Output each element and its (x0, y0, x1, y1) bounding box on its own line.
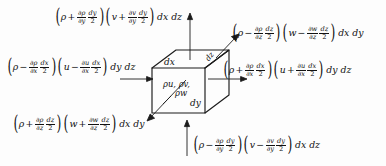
flux-expression-top-right: (ρ−∂ρ∂zdz2)(w−∂w∂zdz2)dx dy (231, 26, 364, 41)
partial-derivative-2: ∂w∂z (88, 117, 99, 132)
operator-2: − (70, 61, 80, 72)
operator-2: − (255, 139, 265, 150)
flux-expression-right: (ρ+∂ρ∂xdx2)(u+∂u∂xdx2)dy dz (222, 63, 351, 78)
flux-arrow-left (120, 77, 153, 82)
half-differential-1: dy2 (226, 138, 236, 153)
cube-label-mass-flux-line2: ρw (175, 89, 187, 99)
partial-derivative-1: ∂ρ∂z (254, 26, 263, 41)
partial-derivative-2: ∂u∂x (80, 60, 90, 75)
half-differential-1: dy2 (88, 10, 98, 25)
half-differential-2: dy2 (138, 10, 148, 25)
velocity-symbol-1: u (280, 64, 286, 75)
partial-derivative-1: ∂ρ∂x (29, 60, 38, 75)
partial-derivative-1: ∂ρ∂y (77, 10, 86, 25)
operator-2: + (117, 11, 127, 22)
flux-expression-bottom-left: (ρ+∂ρ∂zdz2)(w+∂w∂zdz2)dx dy (12, 117, 145, 132)
half-differential-2: dz2 (100, 117, 110, 132)
area-element-1: dy dz (325, 64, 352, 75)
operator-1: − (204, 139, 214, 150)
area-element-1: dx dy (337, 27, 364, 38)
flux-arrow-top (187, 13, 192, 60)
half-differential-1: dz2 (265, 26, 275, 41)
operator-1: − (18, 61, 28, 72)
half-differential-2: dx2 (91, 60, 101, 75)
operator-2: − (296, 27, 306, 38)
center-label-pointer (163, 96, 171, 104)
cube-label-dy: dy (190, 98, 201, 108)
area-element-1: dx dz (155, 11, 182, 22)
area-element-1: dx dz (293, 139, 320, 150)
partial-derivative-2: ∂u∂x (296, 63, 306, 78)
half-differential-2: dx2 (307, 63, 317, 78)
area-element-1: dy dz (109, 61, 136, 72)
partial-derivative-1: ∂ρ∂y (215, 138, 224, 153)
half-differential-1: dz2 (46, 117, 56, 132)
flux-expression-bottom: (ρ−∂ρ∂ydy2)(v−∂v∂ydy2)dx dz (192, 138, 320, 153)
half-differential-1: dx2 (256, 63, 266, 78)
operator-2: + (286, 64, 296, 75)
flux-expression-top: (ρ+∂ρ∂ydy2)(v+∂v∂ydy2)dx dz (54, 10, 182, 25)
operator-1: + (66, 11, 76, 22)
operator-1: + (24, 118, 34, 129)
half-differential-1: dx2 (40, 60, 50, 75)
partial-derivative-2: ∂w∂z (307, 26, 318, 41)
velocity-symbol-1: u (64, 61, 70, 72)
partial-derivative-1: ∂ρ∂x (245, 63, 254, 78)
partial-derivative-2: ∂v∂y (266, 138, 275, 153)
flux-arrow-bottom (184, 120, 189, 156)
operator-1: − (243, 27, 253, 38)
area-element-1: dx dy (118, 118, 145, 129)
operator-2: + (77, 118, 87, 129)
flux-expression-left: (ρ−∂ρ∂xdx2)(u−∂u∂xdx2)dy dz (6, 60, 135, 75)
partial-derivative-2: ∂v∂y (128, 10, 137, 25)
operator-1: + (234, 64, 244, 75)
cube-label-dx: dx (164, 57, 175, 67)
half-differential-2: dz2 (319, 26, 329, 41)
partial-derivative-1: ∂ρ∂z (35, 117, 44, 132)
half-differential-2: dy2 (276, 138, 286, 153)
diagram-canvas: dx dz dy ρu, ρv, ρw (ρ+∂ρ∂ydy2)(v+∂v∂ydy… (0, 0, 386, 166)
